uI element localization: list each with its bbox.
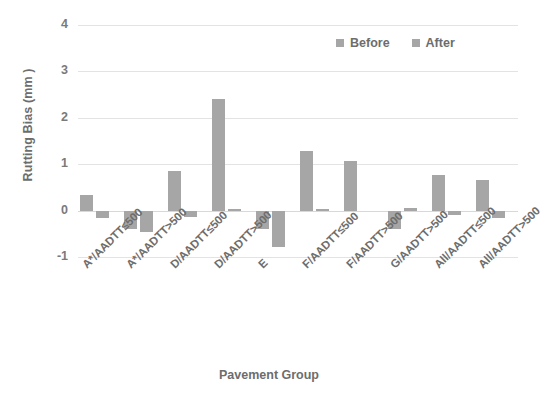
plot-area [78, 25, 518, 257]
bar-after[interactable] [96, 211, 109, 219]
bar-before[interactable] [212, 99, 225, 210]
bar-before[interactable] [80, 195, 93, 210]
y-tick-label: 3 [34, 63, 68, 77]
y-tick-label: 4 [34, 17, 68, 31]
x-axis-tick-labels: A*/AADTT≤500A*/AADTT>500D/AADTT≤500D/AAD… [78, 262, 518, 357]
y-axis-title: Rutting Bias (mm ) [21, 35, 35, 215]
bar-before[interactable] [344, 161, 357, 211]
bar-group [298, 25, 342, 257]
bars-layer [78, 25, 518, 257]
bar-after[interactable] [316, 209, 329, 211]
bar-after[interactable] [228, 209, 241, 211]
bar-after[interactable] [272, 211, 285, 247]
bar-before[interactable] [300, 151, 313, 211]
x-tick-label: E [256, 257, 270, 271]
y-tick-label: 1 [34, 156, 68, 170]
bar-after[interactable] [404, 208, 417, 211]
y-tick-label: 2 [34, 110, 68, 124]
bar-group [78, 25, 122, 257]
bar-before[interactable] [432, 175, 445, 211]
y-tick-label: -1 [34, 249, 68, 263]
y-tick-label: 0 [34, 203, 68, 217]
bar-after[interactable] [448, 211, 461, 216]
x-axis-title: Pavement Group [0, 368, 538, 382]
bar-before[interactable] [168, 171, 181, 210]
